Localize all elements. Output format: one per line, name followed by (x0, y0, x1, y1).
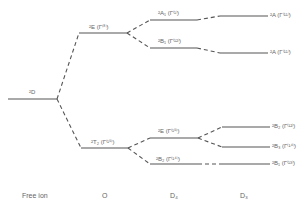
label-O-T2: ²T₂ (Γ⁽¹⁵⁾) (91, 139, 114, 145)
connector-E-B2 (198, 127, 222, 138)
connector-E-A1 (127, 20, 150, 33)
connector-B1-A (197, 48, 220, 53)
label-free-ion-D: ²D (29, 89, 35, 95)
connector-D-T2 (57, 99, 81, 148)
label-D3-A-low: ²A (Γ⁽¹¹⁾) (270, 49, 291, 55)
label-D3-B3: ²B₃ (Γ⁽¹⁴⁾) (272, 143, 296, 149)
label-O-E: ²E (Γ⁽⁸⁾) (89, 24, 109, 30)
column-label-free-ion: Free ion (22, 192, 48, 199)
column-label-D3: D₃ (240, 192, 248, 199)
connector-A1-A (197, 16, 220, 20)
column-label-D4: D₄ (170, 192, 178, 199)
label-D4-A1: ²A₁ (Γ⁽¹⁾) (158, 10, 179, 16)
connector-T2-B2 (128, 148, 150, 164)
connector-D-E (57, 33, 79, 99)
label-D4-B2: ²B₂ (Γ⁽¹⁴⁾) (156, 156, 180, 162)
connector-T2-E (128, 138, 150, 148)
label-D4-B1: ²B₁ (Γ⁽¹²⁾) (158, 38, 181, 44)
connector-E-B3 (198, 138, 222, 147)
label-D3-B1: ²B₁ (Γ⁽¹³⁾) (272, 160, 295, 166)
label-D4-E: ²E (Γ⁽¹⁵⁾) (158, 128, 179, 134)
label-D3-A-top: ²A (Γ⁽¹¹⁾) (270, 12, 291, 18)
splitting-diagram-lines (0, 0, 305, 204)
connector-E-B1 (127, 33, 150, 48)
label-D3-B2: ²B₂ (Γ⁽¹²⁾) (272, 123, 295, 129)
column-label-O: O (102, 192, 107, 199)
